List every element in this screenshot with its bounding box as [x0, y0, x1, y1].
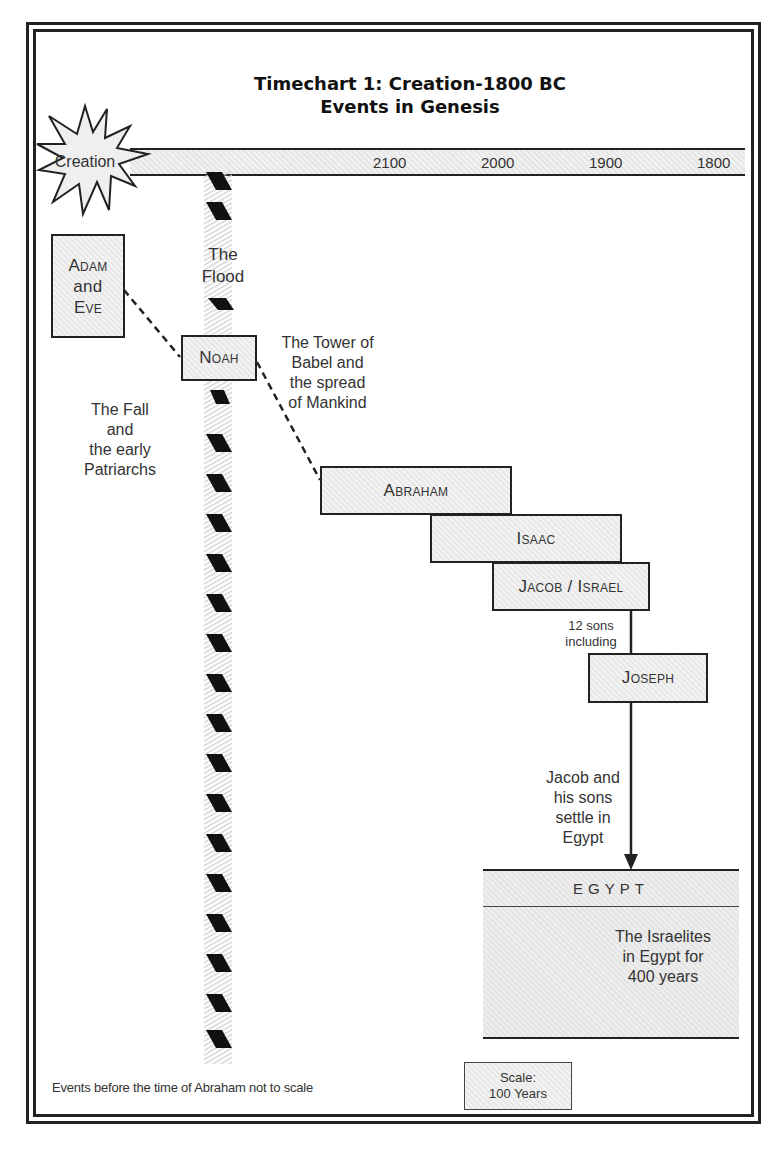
isaac-label: Isaac [497, 529, 556, 549]
egypt-description: The Israelites in Egypt for 400 years [588, 927, 738, 987]
babel-line-3: the spread [265, 373, 390, 393]
isaac-box: Isaac [430, 514, 622, 563]
eve-label: Eve [74, 297, 102, 318]
settle-line-4: Egypt [540, 828, 626, 848]
footnote: Events before the time of Abraham not to… [52, 1080, 313, 1095]
fall-annotation: The Fall and the early Patriarchs [70, 400, 170, 480]
scale-line-2: 100 Years [465, 1086, 571, 1102]
scale-line-1: Scale: [465, 1070, 571, 1086]
noah-box: Noah [181, 335, 257, 381]
babel-line-4: of Mankind [265, 393, 390, 413]
fall-line-3: the early [70, 440, 170, 460]
egypt-line-3: 400 years [588, 967, 738, 987]
babel-line-1: The Tower of [265, 333, 390, 353]
noah-label: Noah [199, 348, 238, 368]
egypt-line-1: The Israelites [588, 927, 738, 947]
settle-line-1: Jacob and [540, 768, 626, 788]
sons-annotation: 12 sons including [555, 618, 627, 650]
settle-line-3: settle in [540, 808, 626, 828]
sons-line-2: including [555, 634, 627, 650]
sons-line-1: 12 sons [555, 618, 627, 634]
fall-line-1: The Fall [70, 400, 170, 420]
adam-and-eve-box: Adam and Eve [51, 234, 125, 338]
abraham-label: Abraham [384, 481, 449, 501]
flood-annotation: The Flood [188, 244, 258, 288]
adam-label: Adam [68, 255, 107, 276]
babel-line-2: Babel and [265, 353, 390, 373]
joseph-box: Joseph [588, 653, 708, 703]
scale-legend: Scale: 100 Years [464, 1062, 572, 1110]
egypt-line-2: in Egypt for [588, 947, 738, 967]
babel-annotation: The Tower of Babel and the spread of Man… [265, 333, 390, 413]
settle-annotation: Jacob and his sons settle in Egypt [540, 768, 626, 848]
fall-line-2: and [70, 420, 170, 440]
jacob-israel-box: Jacob / Israel [492, 562, 650, 611]
flood-line-1: The [188, 244, 258, 266]
settle-line-2: his sons [540, 788, 626, 808]
egypt-header: EGYPT [483, 871, 739, 907]
fall-line-4: Patriarchs [70, 460, 170, 480]
joseph-label: Joseph [622, 668, 674, 688]
egypt-band: EGYPT The Israelites in Egypt for 400 ye… [483, 869, 739, 1039]
and-label: and [73, 276, 102, 297]
flood-line-2: Flood [188, 266, 258, 288]
abraham-box: Abraham [320, 466, 512, 515]
jacob-label: Jacob / Israel [519, 577, 624, 597]
